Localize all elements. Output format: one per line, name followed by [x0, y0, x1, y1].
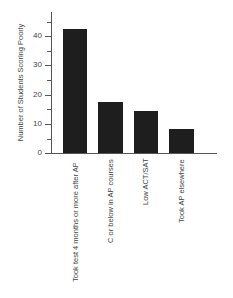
y-tick-label: 40 — [22, 31, 42, 40]
bar-low-act-sat — [134, 111, 158, 153]
x-category-label: Low ACT/SAT — [141, 158, 150, 205]
y-minor-tick-15 — [47, 109, 51, 110]
y-tick-label: 0 — [22, 148, 42, 157]
y-axis-line — [51, 12, 52, 153]
y-minor-tick-35 — [47, 51, 51, 52]
bar-took-ap-elsewhere — [169, 129, 194, 153]
x-category-label: C or below in AP courses — [106, 159, 115, 243]
x-category-label: Took AP elsewhere — [177, 159, 186, 223]
y-minor-tick-45 — [47, 22, 51, 23]
y-tick-40 — [45, 36, 51, 37]
bar-c-or-below — [98, 102, 123, 153]
y-axis-title: Number of Students Scoring Poorly — [16, 23, 25, 143]
y-tick-20 — [45, 95, 51, 96]
x-axis-line — [51, 153, 217, 154]
y-tick-10 — [45, 124, 51, 125]
y-minor-tick-25 — [47, 80, 51, 81]
y-tick-label: 30 — [22, 60, 42, 69]
y-minor-tick-5 — [47, 139, 51, 140]
bar-took-test-late — [63, 29, 87, 153]
y-tick-label: 20 — [22, 90, 42, 99]
x-category-label: Took test 4 months or more after AP — [71, 162, 80, 282]
y-tick-0 — [45, 153, 51, 154]
y-tick-label: 10 — [22, 119, 42, 128]
y-tick-30 — [45, 65, 51, 66]
